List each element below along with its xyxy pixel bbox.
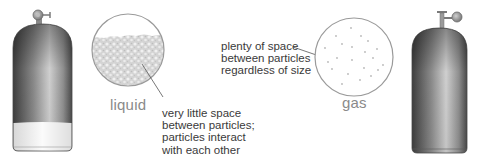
gas-state-label: gas [342,95,367,110]
gas-caption-line: plenty of space [221,40,311,52]
valve-icon [33,10,50,24]
liquid-particles-circle [88,14,168,90]
liquid-cylinder-icon [13,10,72,151]
states-of-matter-diagram: liquid gas very little space between par… [0,0,482,164]
gas-cylinder-icon [412,11,467,153]
liquid-caption-line: with each other [162,144,255,156]
gas-particles-circle [315,18,393,96]
gas-caption: plenty of space between particles regard… [221,40,311,77]
liquid-fill [14,122,72,151]
liquid-caption-line: between particles; [162,119,255,131]
valve-icon [437,11,462,28]
gas-caption-line: regardless of size [221,64,311,76]
liquid-caption: very little space between particles; par… [162,107,255,156]
liquid-state-label: liquid [110,97,146,112]
gas-caption-line: between particles [221,52,311,64]
liquid-caption-line: particles interact [162,131,255,143]
liquid-caption-line: very little space [162,107,255,119]
